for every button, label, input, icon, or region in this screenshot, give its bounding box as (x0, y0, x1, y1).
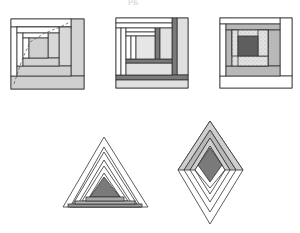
log-cabin-block-2 (116, 18, 188, 88)
triangle-log-cabin (63, 137, 148, 207)
log-cabin-block-1 (11, 19, 84, 89)
diamond-log-cabin (178, 121, 243, 224)
log-cabin-block-3 (220, 18, 292, 88)
quilt-block-diagrams (0, 0, 300, 233)
